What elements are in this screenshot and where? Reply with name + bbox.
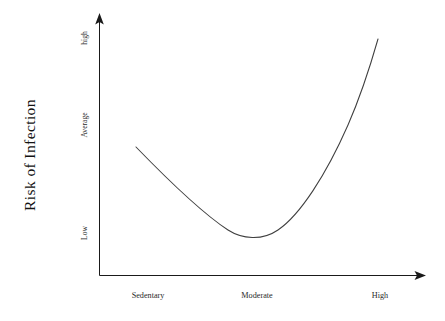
chart-plot-area — [0, 0, 445, 321]
x-tick-label-moderate: Moderate — [241, 291, 272, 300]
risk-curve — [136, 39, 378, 238]
x-tick-label-sedentary: Sedentary — [132, 291, 165, 300]
chart-container: Risk of Infection high Average Low Seden… — [0, 0, 445, 321]
y-tick-label-high: high — [80, 31, 89, 45]
y-axis-title: Risk of Infection — [21, 99, 39, 211]
y-tick-label-average: Average — [80, 112, 89, 137]
x-tick-label-high: High — [372, 291, 388, 300]
y-tick-label-low: Low — [80, 226, 89, 240]
